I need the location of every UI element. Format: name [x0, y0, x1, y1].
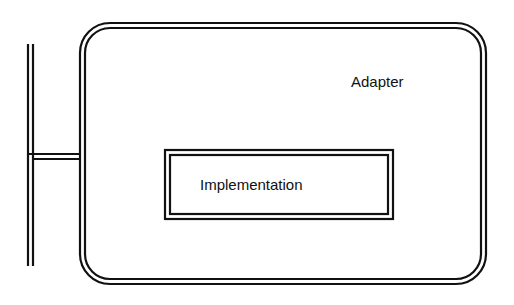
- interface-connector: [28, 154, 79, 159]
- implementation-label: Implementation: [200, 176, 303, 193]
- adapter-label: Adapter: [351, 73, 404, 90]
- adapter-box: [80, 23, 486, 284]
- adapter-diagram: Adapter Implementation: [0, 0, 514, 305]
